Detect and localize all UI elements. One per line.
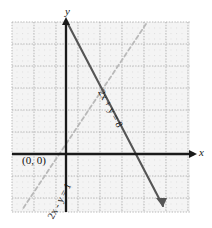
coordinate-graph-figure: y x (0, 0) 2x + y = 8 2x - y = 1 [0, 0, 212, 228]
x-axis-arrow [189, 150, 197, 158]
origin-point-label: (0, 0) [22, 155, 46, 166]
graph-canvas [0, 0, 212, 228]
y-axis-arrow [62, 17, 70, 25]
y-axis-label: y [65, 6, 70, 17]
x-axis-label: x [199, 147, 204, 158]
